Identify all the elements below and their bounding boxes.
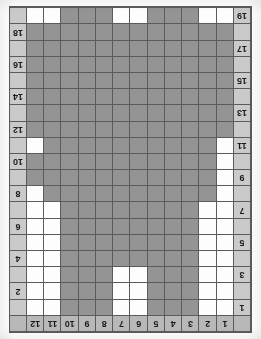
chart-cell[interactable] xyxy=(113,40,130,56)
chart-cell[interactable] xyxy=(147,202,164,218)
chart-cell[interactable] xyxy=(27,234,44,250)
chart-cell[interactable] xyxy=(113,137,130,153)
chart-cell[interactable] xyxy=(165,121,182,137)
chart-cell[interactable] xyxy=(27,251,44,267)
chart-cell[interactable] xyxy=(78,153,95,169)
chart-cell[interactable] xyxy=(199,40,216,56)
chart-cell[interactable] xyxy=(113,121,130,137)
chart-cell[interactable] xyxy=(165,56,182,72)
chart-cell[interactable] xyxy=(113,234,130,250)
chart-cell[interactable] xyxy=(199,8,216,24)
chart-cell[interactable] xyxy=(216,170,233,186)
chart-cell[interactable] xyxy=(96,24,113,40)
chart-cell[interactable] xyxy=(182,40,199,56)
chart-cell[interactable] xyxy=(165,8,182,24)
chart-cell[interactable] xyxy=(78,283,95,299)
chart-cell[interactable] xyxy=(78,24,95,40)
chart-cell[interactable] xyxy=(130,283,147,299)
chart-cell[interactable] xyxy=(96,153,113,169)
chart-cell[interactable] xyxy=(96,121,113,137)
chart-cell[interactable] xyxy=(78,8,95,24)
chart-cell[interactable] xyxy=(27,218,44,234)
chart-cell[interactable] xyxy=(199,89,216,105)
chart-cell[interactable] xyxy=(147,121,164,137)
chart-cell[interactable] xyxy=(165,202,182,218)
chart-cell[interactable] xyxy=(130,251,147,267)
chart-cell[interactable] xyxy=(130,73,147,89)
chart-cell[interactable] xyxy=(27,267,44,283)
chart-cell[interactable] xyxy=(216,234,233,250)
chart-cell[interactable] xyxy=(78,56,95,72)
chart-cell[interactable] xyxy=(216,89,233,105)
chart-cell[interactable] xyxy=(165,153,182,169)
chart-cell[interactable] xyxy=(96,105,113,121)
chart-cell[interactable] xyxy=(96,73,113,89)
chart-cell[interactable] xyxy=(147,186,164,202)
chart-cell[interactable] xyxy=(216,56,233,72)
chart-cell[interactable] xyxy=(44,234,61,250)
chart-cell[interactable] xyxy=(27,40,44,56)
chart-cell[interactable] xyxy=(130,218,147,234)
chart-cell[interactable] xyxy=(96,8,113,24)
chart-cell[interactable] xyxy=(216,299,233,315)
chart-cell[interactable] xyxy=(61,170,78,186)
chart-cell[interactable] xyxy=(165,105,182,121)
chart-cell[interactable] xyxy=(147,40,164,56)
chart-cell[interactable] xyxy=(44,153,61,169)
chart-cell[interactable] xyxy=(27,73,44,89)
chart-cell[interactable] xyxy=(199,186,216,202)
chart-cell[interactable] xyxy=(61,186,78,202)
chart-cell[interactable] xyxy=(147,283,164,299)
chart-cell[interactable] xyxy=(165,283,182,299)
chart-cell[interactable] xyxy=(216,202,233,218)
chart-cell[interactable] xyxy=(199,121,216,137)
chart-cell[interactable] xyxy=(199,234,216,250)
chart-cell[interactable] xyxy=(78,267,95,283)
chart-cell[interactable] xyxy=(27,105,44,121)
chart-cell[interactable] xyxy=(96,40,113,56)
chart-cell[interactable] xyxy=(130,267,147,283)
chart-cell[interactable] xyxy=(130,56,147,72)
chart-cell[interactable] xyxy=(216,105,233,121)
chart-cell[interactable] xyxy=(44,121,61,137)
chart-cell[interactable] xyxy=(199,218,216,234)
chart-cell[interactable] xyxy=(182,218,199,234)
chart-cell[interactable] xyxy=(96,251,113,267)
chart-cell[interactable] xyxy=(130,186,147,202)
chart-cell[interactable] xyxy=(182,24,199,40)
chart-cell[interactable] xyxy=(147,170,164,186)
chart-cell[interactable] xyxy=(199,73,216,89)
chart-cell[interactable] xyxy=(216,73,233,89)
chart-cell[interactable] xyxy=(78,73,95,89)
chart-cell[interactable] xyxy=(147,24,164,40)
chart-cell[interactable] xyxy=(182,105,199,121)
chart-cell[interactable] xyxy=(182,170,199,186)
chart-cell[interactable] xyxy=(147,153,164,169)
chart-cell[interactable] xyxy=(96,283,113,299)
chart-cell[interactable] xyxy=(216,137,233,153)
chart-cell[interactable] xyxy=(113,89,130,105)
chart-cell[interactable] xyxy=(182,251,199,267)
chart-cell[interactable] xyxy=(113,24,130,40)
chart-cell[interactable] xyxy=(113,267,130,283)
chart-cell[interactable] xyxy=(199,267,216,283)
chart-cell[interactable] xyxy=(165,137,182,153)
chart-cell[interactable] xyxy=(27,24,44,40)
chart-cell[interactable] xyxy=(96,56,113,72)
chart-cell[interactable] xyxy=(61,299,78,315)
chart-cell[interactable] xyxy=(44,73,61,89)
chart-cell[interactable] xyxy=(147,89,164,105)
chart-cell[interactable] xyxy=(216,283,233,299)
chart-cell[interactable] xyxy=(216,24,233,40)
chart-cell[interactable] xyxy=(147,137,164,153)
chart-cell[interactable] xyxy=(44,40,61,56)
chart-cell[interactable] xyxy=(182,299,199,315)
chart-cell[interactable] xyxy=(27,299,44,315)
chart-cell[interactable] xyxy=(27,8,44,24)
chart-cell[interactable] xyxy=(61,40,78,56)
chart-cell[interactable] xyxy=(216,267,233,283)
chart-cell[interactable] xyxy=(44,202,61,218)
chart-cell[interactable] xyxy=(61,24,78,40)
chart-cell[interactable] xyxy=(78,170,95,186)
chart-cell[interactable] xyxy=(61,105,78,121)
